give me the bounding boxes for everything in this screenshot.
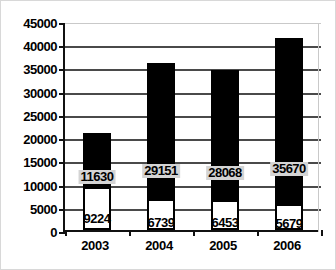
y-axis-tick-label: 40000 bbox=[1, 39, 57, 54]
plot-area: 116309224291516739280686453356705679 bbox=[63, 23, 319, 232]
y-axis-tick bbox=[59, 209, 65, 211]
x-axis-tick bbox=[193, 230, 195, 236]
data-label-upper: 29151 bbox=[142, 164, 180, 178]
y-axis-tick-label: 20000 bbox=[1, 132, 57, 147]
y-axis-tick-label: 35000 bbox=[1, 62, 57, 77]
y-axis-tick-label: 30000 bbox=[1, 85, 57, 100]
x-axis-category-label: 2003 bbox=[81, 238, 109, 253]
x-axis-category-labels: 2003200420052006 bbox=[63, 238, 319, 262]
data-label-lower: 9224 bbox=[84, 212, 111, 226]
y-axis-tick bbox=[59, 23, 65, 25]
y-axis-tick-label: 25000 bbox=[1, 108, 57, 123]
x-axis-tick bbox=[257, 230, 259, 236]
data-label-upper: 35670 bbox=[270, 162, 308, 176]
y-axis-tick bbox=[59, 139, 65, 141]
plot-right-border bbox=[318, 23, 319, 232]
y-axis-tick bbox=[59, 46, 65, 48]
data-label-lower: 5679 bbox=[276, 217, 303, 231]
stacked-bar-chart: 0500010000150002000025000300003500040000… bbox=[1, 1, 336, 270]
chart-frame: 0500010000150002000025000300003500040000… bbox=[0, 0, 336, 270]
y-axis-tick-label: 5000 bbox=[1, 201, 57, 216]
x-axis-category-label: 2004 bbox=[145, 238, 173, 253]
y-axis-tick-label: 15000 bbox=[1, 155, 57, 170]
data-label-lower: 6739 bbox=[148, 216, 175, 230]
data-label-lower: 6453 bbox=[212, 216, 239, 230]
x-axis-tick bbox=[129, 230, 131, 236]
bar-group bbox=[83, 21, 111, 230]
bar-segment-upper bbox=[211, 70, 239, 200]
y-axis-tick bbox=[59, 186, 65, 188]
bar-group bbox=[147, 21, 175, 230]
y-axis-tick bbox=[59, 162, 65, 164]
bar-group bbox=[211, 21, 239, 230]
x-axis-tick bbox=[65, 230, 67, 236]
bar-segment-upper bbox=[275, 38, 303, 204]
bar-segment-upper bbox=[147, 63, 175, 198]
data-label-upper: 28068 bbox=[206, 166, 244, 180]
x-axis-tick bbox=[321, 230, 323, 236]
y-axis-tick-label: 10000 bbox=[1, 178, 57, 193]
data-label-upper: 11630 bbox=[79, 170, 116, 184]
y-axis-tick-label: 0 bbox=[1, 225, 57, 240]
x-axis-category-label: 2005 bbox=[209, 238, 237, 253]
x-axis-category-label: 2006 bbox=[273, 238, 301, 253]
y-axis-tick bbox=[59, 116, 65, 118]
bar-group bbox=[275, 21, 303, 230]
y-axis-tick-label: 45000 bbox=[1, 16, 57, 31]
y-axis-tick bbox=[59, 93, 65, 95]
y-axis-tick bbox=[59, 69, 65, 71]
